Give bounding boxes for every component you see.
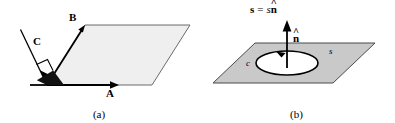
equation-unit-normal: ^n	[271, 3, 277, 15]
normal-vector-equation: s=s^n	[250, 3, 277, 15]
vector-b-label: B	[69, 12, 76, 23]
parallelogram-surface	[47, 25, 190, 85]
surface-s-label: s	[329, 47, 333, 56]
equation-equals: =	[257, 3, 263, 15]
panel-b: s=s^n ^n s c (b)	[198, 0, 395, 123]
panel-a: B C A (a)	[0, 0, 198, 123]
panel-b-caption: (b)	[198, 108, 395, 120]
vector-a-label: A	[106, 88, 114, 99]
panel-a-caption: (a)	[0, 108, 198, 120]
equation-hat-accent: ^	[271, 0, 277, 8]
curve-c-label: c	[246, 59, 250, 68]
panel-a-graphic	[0, 0, 198, 123]
normal-vector-arrowhead	[283, 20, 292, 32]
equation-lhs: s	[250, 3, 254, 15]
n-hat-accent: ^	[293, 26, 299, 37]
normal-n-hat-label: ^n	[293, 32, 299, 44]
n-hat-wrap: ^n	[293, 32, 299, 44]
vector-c-label: C	[33, 36, 41, 47]
panel-b-graphic	[198, 0, 395, 123]
physics-figure: B C A (a) s=s^n ^n s c (b)	[0, 0, 395, 123]
